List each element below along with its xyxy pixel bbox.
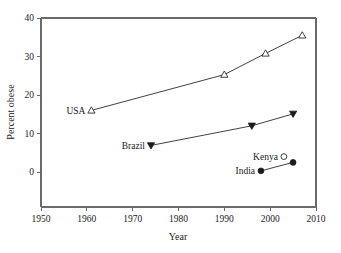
y-axis-title: Percent obese [5, 84, 16, 140]
series-usa [88, 32, 306, 113]
series-label-india: India [235, 166, 255, 176]
series-brazil [147, 111, 296, 149]
series-label-brazil: Brazil [122, 141, 146, 151]
series-line-brazil [151, 114, 293, 146]
x-tick-label: 1960 [77, 214, 96, 224]
obesity-trend-chart: 0102030401950196019701980199020002010 US… [0, 0, 341, 253]
axis-tick-labels: 0102030401950196019701980199020002010 [25, 13, 326, 224]
series-line-india [261, 162, 293, 170]
data-point-usa-3 [299, 32, 306, 38]
y-tick-label: 0 [29, 167, 34, 177]
x-tick-label: 2000 [261, 214, 280, 224]
series-label-usa: USA [66, 106, 85, 116]
chart-container: 0102030401950196019701980199020002010 US… [0, 0, 341, 253]
data-point-usa-2 [262, 50, 269, 56]
x-tick-label: 1980 [169, 214, 188, 224]
data-point-usa-1 [221, 71, 228, 77]
series-kenya [281, 154, 287, 160]
data-point-india-1 [290, 159, 296, 165]
x-axis-title: Year [169, 231, 188, 242]
y-tick-label: 20 [25, 90, 35, 100]
data-point-kenya-0 [281, 154, 287, 160]
series-line-usa [91, 35, 302, 110]
x-tick-label: 1950 [32, 214, 51, 224]
x-tick-label: 1990 [215, 214, 234, 224]
x-tick-label: 2010 [307, 214, 326, 224]
data-point-brazil-0 [147, 143, 154, 149]
x-tick-label: 1970 [123, 214, 142, 224]
y-tick-label: 40 [25, 13, 35, 23]
series-label-kenya: Kenya [253, 152, 279, 162]
data-point-india-0 [258, 168, 264, 174]
y-tick-label: 30 [25, 52, 35, 62]
y-tick-label: 10 [25, 129, 35, 139]
